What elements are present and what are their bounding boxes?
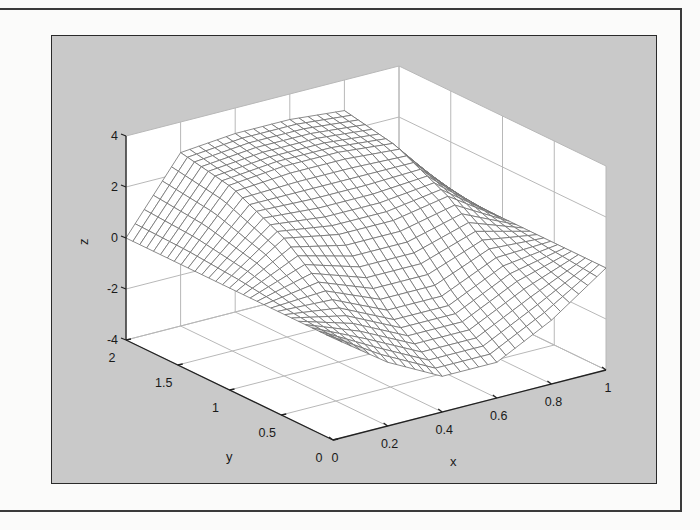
x-tick-label: 0 <box>332 451 339 465</box>
y-tick-label: 1 <box>212 401 219 415</box>
y-tick-label: 0.5 <box>259 426 276 440</box>
z-tick-label: 4 <box>111 129 118 143</box>
surface-plot: 00.20.40.60.8100.511.52-4-2024 x y z <box>0 0 700 530</box>
x-tick-label: 0.4 <box>436 423 453 437</box>
y-tick-label: 0 <box>316 451 323 465</box>
y-tick-label: 2 <box>109 351 116 365</box>
z-tick-label: 2 <box>111 180 118 194</box>
y-tick-label: 1.5 <box>155 376 172 390</box>
z-tick-label: 0 <box>111 231 118 245</box>
x-tick-label: 0.8 <box>545 395 562 409</box>
y-axis-label: y <box>226 449 233 464</box>
x-tick-label: 1 <box>605 381 612 395</box>
z-tick-label: -4 <box>107 333 118 347</box>
z-axis-label: z <box>76 239 91 246</box>
x-tick-label: 0.2 <box>381 437 398 451</box>
x-tick-label: 0.6 <box>490 409 507 423</box>
x-axis-label: x <box>450 454 457 469</box>
z-tick-label: -2 <box>107 282 118 296</box>
